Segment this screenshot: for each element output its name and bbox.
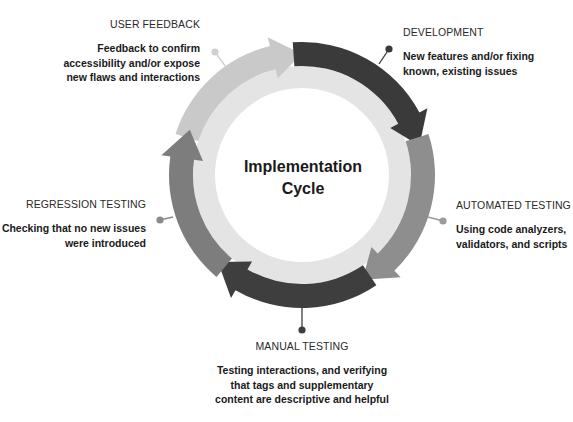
- stage-description: New features and/or fixing known, existi…: [403, 49, 534, 78]
- description-line: Testing interactions, and verifying: [152, 363, 452, 378]
- stage-description: Testing interactions, and verifying that…: [152, 363, 452, 407]
- stage-development: DEVELOPMENT New features and/or fixing k…: [403, 26, 534, 78]
- connector-dot-regression-testing: [156, 216, 163, 223]
- description-line: validators, and scripts: [456, 237, 571, 252]
- stage-description: Feedback to confirm accessibility and/or…: [63, 41, 200, 85]
- connector-dot-development: [385, 45, 392, 52]
- description-line: that tags and supplementary: [152, 378, 452, 393]
- description-line: accessibility and/or expose: [63, 56, 200, 71]
- description-line: known, existing issues: [403, 64, 534, 79]
- stage-title: DEVELOPMENT: [403, 26, 534, 38]
- stage-description: Checking that no new issues were introdu…: [2, 221, 146, 250]
- stage-title: USER FEEDBACK: [63, 18, 200, 30]
- stage-description: Using code analyzers, validators, and sc…: [456, 222, 571, 251]
- center-title-line-2: Cycle: [203, 178, 403, 200]
- center-title: Implementation Cycle: [203, 156, 403, 200]
- stage-regression-testing: REGRESSION TESTING Checking that no new …: [2, 198, 146, 250]
- description-line: New features and/or fixing: [403, 49, 534, 64]
- stage-title: MANUAL TESTING: [152, 340, 452, 352]
- stage-title: REGRESSION TESTING: [2, 198, 146, 210]
- description-line: Feedback to confirm: [63, 41, 200, 56]
- description-line: were introduced: [2, 236, 146, 251]
- stage-title: AUTOMATED TESTING: [456, 199, 571, 211]
- center-title-line-1: Implementation: [203, 156, 403, 178]
- description-line: Using code analyzers,: [456, 222, 571, 237]
- connector-dot-user-feedback: [211, 48, 218, 55]
- connector-dot-manual-testing: [298, 326, 305, 333]
- stage-user-feedback: USER FEEDBACK Feedback to confirm access…: [63, 18, 200, 85]
- description-line: new flaws and interactions: [63, 70, 200, 85]
- connector-dot-automated-testing: [439, 217, 446, 224]
- arrow-regression-testing: [161, 130, 232, 277]
- stage-manual-testing: MANUAL TESTING Testing interactions, and…: [152, 340, 452, 407]
- description-line: content are descriptive and helpful: [152, 392, 452, 407]
- description-line: Checking that no new issues: [2, 221, 146, 236]
- stage-automated-testing: AUTOMATED TESTING Using code analyzers, …: [456, 199, 571, 251]
